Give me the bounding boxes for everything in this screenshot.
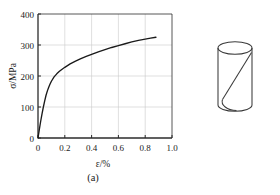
y-tick-label-0: 0 [30, 134, 35, 144]
x-tick-label-0p6: 0.6 [113, 143, 125, 153]
x-axis-title: ε/% [96, 159, 111, 169]
x-tick-label-0p2: 0.2 [59, 143, 70, 153]
fracture-plane-base-arc [222, 100, 236, 111]
y-tick-label-300: 300 [21, 41, 35, 51]
panel-cylinder-specimen: (b) [186, 0, 280, 195]
x-tick-label-0: 0 [36, 143, 41, 153]
cylinder-top-ellipse [218, 42, 252, 54]
y-tick-label-400: 400 [21, 10, 35, 20]
panel-stress-strain-chart: 0 100 200 300 400 0 0.2 0.4 0.6 0.8 1.0 … [0, 0, 186, 195]
panel-a-caption: (a) [68, 172, 118, 183]
stress-strain-chart-svg: 0 100 200 300 400 0 0.2 0.4 0.6 0.8 1.0 … [0, 0, 186, 170]
y-axis-title: σ/MPa [8, 62, 18, 88]
x-tick-label-1p0: 1.0 [166, 143, 178, 153]
cylinder-drawing [218, 42, 252, 111]
fracture-plane-line [223, 53, 252, 100]
x-tick-label-0p8: 0.8 [140, 143, 152, 153]
cylinder-specimen-svg [186, 0, 280, 170]
y-tick-label-100: 100 [21, 103, 35, 113]
figure-root: 0 100 200 300 400 0 0.2 0.4 0.6 0.8 1.0 … [0, 0, 280, 195]
y-tick-label-200: 200 [21, 72, 35, 82]
x-tick-label-0p4: 0.4 [86, 143, 98, 153]
